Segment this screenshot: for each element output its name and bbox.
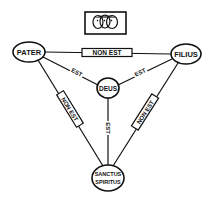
- svg-text:SANCTUS: SANCTUS: [95, 171, 122, 177]
- svg-text:SPIRITUS: SPIRITUS: [95, 179, 121, 185]
- three-faces-icon: [85, 12, 126, 34]
- node-spiritus: SANCTUS SPIRITUS: [92, 165, 124, 191]
- label-filius-deus: EST: [132, 66, 148, 78]
- node-pater: PATER: [13, 42, 45, 62]
- node-deus: DEUS: [97, 78, 119, 98]
- label-filius-spiritus: NON EST: [131, 94, 158, 130]
- shield-of-trinity-diagram: NON EST NON EST NON EST EST EST EST PATE…: [0, 0, 215, 204]
- label-pater-spiritus: NON EST: [57, 91, 84, 128]
- label-pater-deus: EST: [69, 66, 85, 79]
- svg-text:PATER: PATER: [17, 48, 42, 57]
- svg-text:FILIUS: FILIUS: [174, 50, 198, 59]
- svg-text:NON EST: NON EST: [93, 49, 122, 56]
- label-pater-filius: NON EST: [82, 49, 132, 57]
- label-deus-spiritus: EST: [105, 121, 112, 135]
- node-filius: FILIUS: [171, 44, 201, 64]
- svg-text:DEUS: DEUS: [99, 85, 118, 92]
- svg-text:EST: EST: [105, 122, 111, 134]
